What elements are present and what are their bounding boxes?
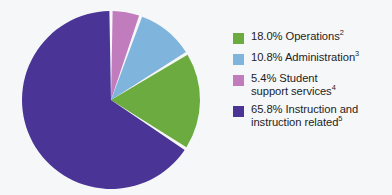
legend-swatch-operations: [233, 33, 244, 44]
legend-label-student-support-services: 5.4% Student support services4: [251, 72, 336, 99]
legend-label-text: support services: [251, 85, 332, 97]
pie-chart-svg: [0, 0, 225, 195]
pie-chart-figure: 18.0% Operations2 10.8% Administration3 …: [0, 0, 392, 195]
footnote-marker: 4: [332, 84, 336, 93]
legend-label-line-2: support services4: [251, 85, 336, 98]
footnote-marker: 5: [338, 114, 342, 123]
legend-item-administration[interactable]: 10.8% Administration3: [233, 51, 392, 65]
legend-label-text: instruction related: [251, 116, 338, 128]
legend-label-line-1: 18.0% Operations2: [251, 30, 344, 43]
legend-label-text: 10.8% Administration: [251, 51, 355, 63]
legend-label-instruction-and-instruction-related: 65.8% Instruction and instruction relate…: [251, 103, 358, 130]
footnote-marker: 2: [340, 28, 344, 37]
legend-label-line-1: 5.4% Student: [251, 72, 336, 85]
legend-item-operations[interactable]: 18.0% Operations2: [233, 30, 392, 44]
legend-label-operations: 18.0% Operations2: [251, 30, 344, 43]
chart-legend: 18.0% Operations2 10.8% Administration3 …: [233, 30, 392, 170]
legend-label-line-2: instruction related5: [251, 116, 358, 129]
legend-swatch-administration: [233, 54, 244, 65]
legend-label-line-1: 10.8% Administration3: [251, 51, 359, 64]
pie-slice-group: [22, 11, 200, 189]
legend-item-student-support-services[interactable]: 5.4% Student support services4: [233, 72, 392, 99]
pie-chart-plot-area: [0, 0, 225, 195]
legend-swatch-student-support-services: [233, 75, 244, 86]
legend-swatch-instruction-and-instruction-related: [233, 106, 244, 117]
legend-label-text: 18.0% Operations: [251, 30, 340, 42]
legend-item-instruction-and-instruction-related[interactable]: 65.8% Instruction and instruction relate…: [233, 103, 392, 130]
footnote-marker: 3: [355, 49, 359, 58]
legend-label-administration: 10.8% Administration3: [251, 51, 359, 64]
